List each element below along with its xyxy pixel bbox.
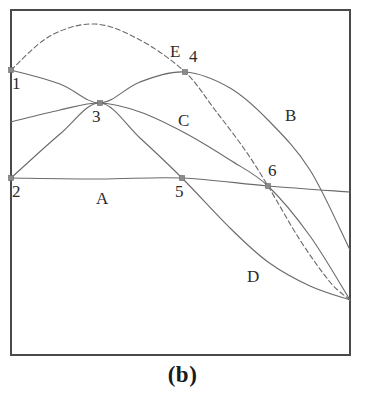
intersection-marker-3 [98,101,103,106]
curve-label-c: C [178,112,189,129]
curve-label-a: A [96,190,108,207]
figure-container: E B C A D 1 2 3 4 5 6 (b) [0,0,365,395]
intersection-marker-2 [9,176,14,181]
point-label-2: 2 [12,183,21,200]
point-label-4: 4 [189,48,198,65]
figure-caption: (b) [0,362,365,388]
curve-label-e: E [170,43,180,60]
intersection-marker-6 [266,184,271,189]
point-label-1: 1 [12,75,21,92]
curve-label-d: D [247,268,259,285]
intersection-marker-1 [9,68,14,73]
point-label-5: 5 [175,183,184,200]
point-label-3: 3 [92,108,101,125]
intersection-marker-5 [180,176,185,181]
point-label-6: 6 [268,162,277,179]
intersection-marker-4 [183,70,188,75]
curve-label-b: B [285,107,296,124]
